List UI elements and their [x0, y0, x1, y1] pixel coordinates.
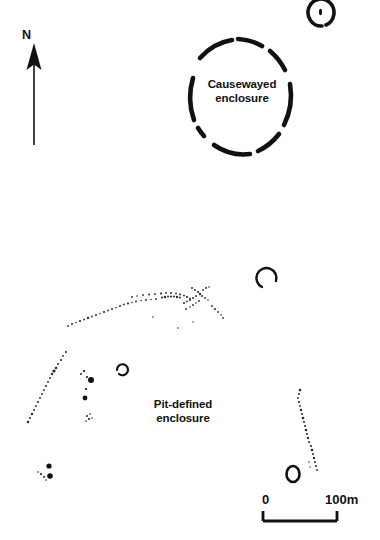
north-arrow-icon — [27, 43, 42, 145]
scale-bar-min-label: 0 — [262, 492, 269, 507]
pit-cluster-centre-feature — [80, 370, 94, 422]
scale-bar-graphic — [263, 511, 337, 521]
label-causewayed-enclosure: Causewayed enclosure — [190, 78, 294, 105]
site-plan-map: Causewayed enclosure Pit-defined enclosu… — [0, 0, 380, 540]
pit-cluster-southwest-feature — [37, 463, 53, 480]
scale-bar-max-label: 100m — [325, 492, 358, 507]
pit-defined-enclosure-feature — [27, 286, 318, 471]
penannular-east-feature — [256, 268, 276, 287]
north-arrow-label: N — [22, 28, 31, 42]
penannular-centre-feature — [117, 364, 128, 375]
ring-ditch-north-feature — [308, 0, 334, 26]
ring-ditch-south-feature — [287, 466, 300, 482]
label-pit-defined-enclosure: Pit-defined enclosure — [131, 398, 235, 425]
